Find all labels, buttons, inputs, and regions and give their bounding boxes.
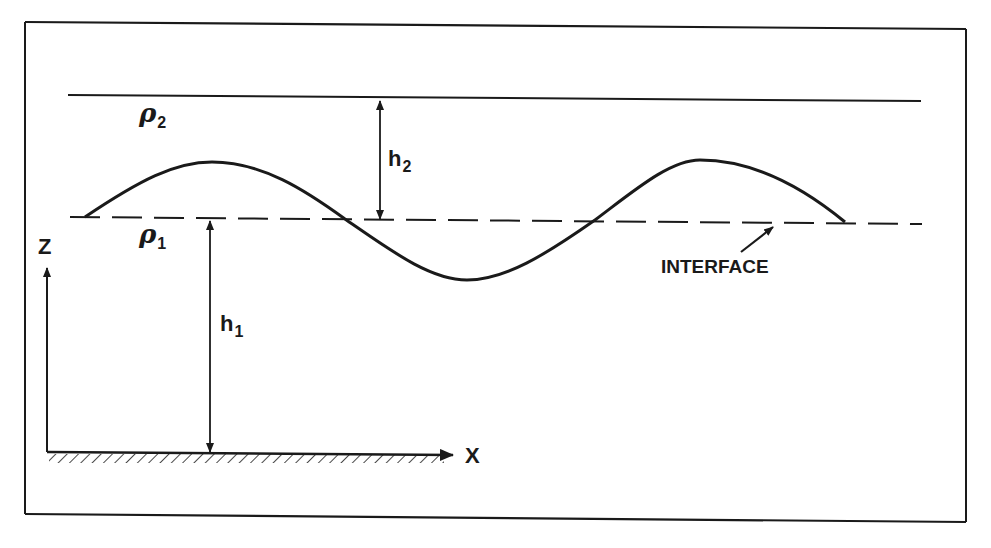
x-axis-label: X xyxy=(465,443,480,469)
lower-thickness-label: h1 xyxy=(220,311,243,337)
rho-symbol: ρ xyxy=(139,98,156,128)
dashed-interface-line xyxy=(70,217,922,224)
h-subscript: 1 xyxy=(234,323,243,340)
hatched-bottom-boundary xyxy=(49,454,444,463)
upper-boundary-line xyxy=(68,95,921,101)
outer-frame xyxy=(25,22,966,522)
rho-symbol: ρ xyxy=(139,219,156,249)
lower-density-label: ρ1 xyxy=(139,219,166,249)
h-symbol: h xyxy=(388,146,401,171)
interface-label: INTERFACE xyxy=(661,256,769,278)
upper-thickness-label: h2 xyxy=(388,146,411,172)
interface-pointer-arrow xyxy=(741,227,773,252)
upper-density-label: ρ2 xyxy=(139,98,166,128)
h-symbol: h xyxy=(220,311,233,336)
h-subscript: 2 xyxy=(402,158,411,175)
rho-subscript: 2 xyxy=(157,114,166,131)
diagram-canvas xyxy=(0,0,991,548)
rho-subscript: 1 xyxy=(157,235,166,252)
z-axis-label: Z xyxy=(38,234,51,260)
